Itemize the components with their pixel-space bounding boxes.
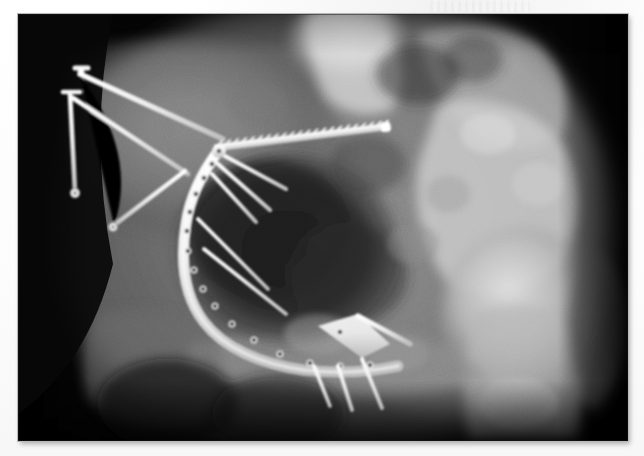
scan-artifact-strip (430, 1, 530, 12)
radiograph-image (18, 14, 628, 441)
screenshot-root (0, 0, 644, 456)
film-grain (18, 14, 628, 441)
radiograph-canvas (18, 14, 628, 441)
